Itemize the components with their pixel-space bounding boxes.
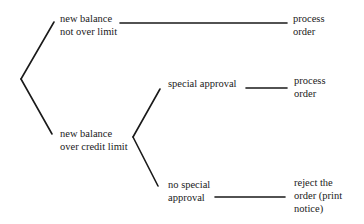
edge-over-to-no-special — [133, 137, 158, 186]
action-process-order-2: process order — [294, 74, 326, 100]
decision-tree-diagram: new balance not over limit process order… — [0, 0, 364, 224]
action-process-order-1: process order — [293, 12, 325, 38]
condition-special-approval: special approval — [168, 77, 237, 90]
condition-no-special-approval: no special approval — [168, 178, 210, 204]
action-reject-order: reject the order (print notice) — [294, 176, 342, 215]
edge-over-to-special — [133, 89, 160, 137]
condition-new-balance-not-over-limit: new balance not over limit — [60, 12, 117, 38]
condition-new-balance-over-credit-limit: new balance over credit limit — [60, 127, 128, 153]
edge-root-to-over — [21, 79, 52, 134]
edge-root-to-not-over — [21, 22, 54, 79]
